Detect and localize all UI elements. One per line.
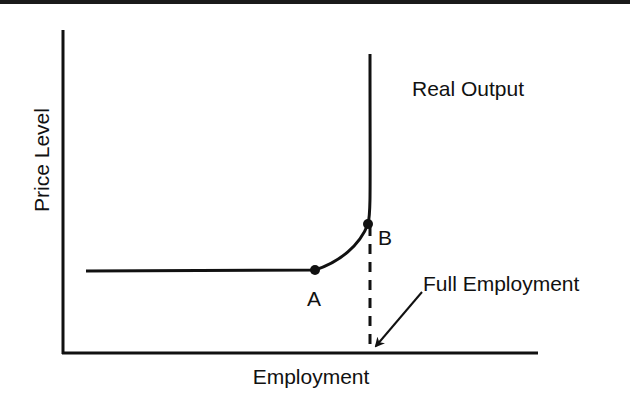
full-employment-arrow bbox=[376, 292, 422, 346]
point-a-marker bbox=[310, 265, 320, 275]
x-axis-label: Employment bbox=[253, 365, 370, 388]
curve-label-real-output: Real Output bbox=[412, 77, 524, 100]
point-b-label: B bbox=[378, 226, 392, 249]
point-b-marker bbox=[363, 219, 373, 229]
diagram-canvas: Price Level Employment Real Output A B F… bbox=[0, 0, 630, 407]
real-output-curve bbox=[86, 54, 370, 271]
point-a-label: A bbox=[307, 287, 321, 310]
full-employment-label: Full Employment bbox=[423, 272, 580, 295]
y-axis-label: Price Level bbox=[30, 108, 53, 212]
